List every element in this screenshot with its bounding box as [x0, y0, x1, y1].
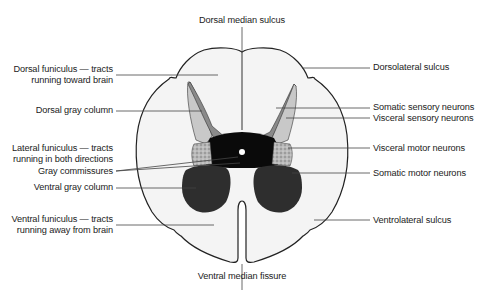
- spinal-cord-diagram: Dorsal median sulcus Ventral median fiss…: [0, 0, 484, 295]
- right-visceral-motor-area: [272, 142, 292, 166]
- label-lateral-funiculus: Lateral funiculus — tracts running in bo…: [12, 143, 113, 165]
- label-ventrolateral-sulcus: Ventrolateral sulcus: [373, 215, 451, 226]
- label-ventral-funiculus: Ventral funiculus — tracts running away …: [11, 214, 113, 236]
- label-gray-commissures: Gray commissures: [38, 166, 113, 177]
- label-dorsal-median-sulcus: Dorsal median sulcus: [192, 15, 292, 26]
- label-ventral-median-fissure: Ventral median fissure: [186, 271, 298, 282]
- central-canal: [239, 149, 245, 155]
- label-somatic-sensory-neurons: Somatic sensory neurons: [373, 102, 474, 113]
- label-visceral-sensory-neurons: Visceral sensory neurons: [373, 113, 474, 124]
- label-somatic-motor-neurons: Somatic motor neurons: [373, 168, 466, 179]
- label-dorsolateral-sulcus: Dorsolateral sulcus: [373, 62, 449, 73]
- label-visceral-motor-neurons: Visceral motor neurons: [373, 143, 465, 154]
- label-ventral-gray-column: Ventral gray column: [34, 182, 113, 193]
- label-dorsal-gray-column: Dorsal gray column: [36, 105, 113, 116]
- label-dorsal-funiculus: Dorsal funiculus — tracts running toward…: [13, 64, 113, 86]
- left-visceral-motor-area: [192, 142, 212, 166]
